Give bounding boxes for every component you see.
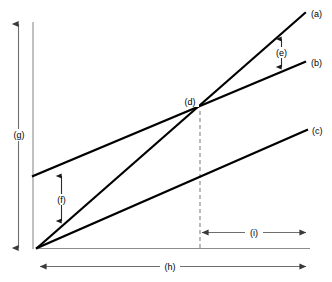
dimension-h-label: (h): [165, 262, 176, 272]
line-series-b: [33, 62, 305, 176]
line-series-c: [37, 130, 307, 248]
series-label-a: (a): [311, 9, 322, 19]
dimension-f-label: (f): [57, 195, 66, 205]
dimension-f-group: (f): [52, 176, 71, 221]
diagram-canvas: (a) (b) (c) (d) (e) (f) (g) (h): [0, 0, 332, 282]
dimension-g-label: (g): [14, 130, 25, 140]
dimension-h-group: (h): [40, 260, 306, 272]
dimension-i-group: (i): [202, 226, 306, 238]
series-label-b: (b): [311, 58, 322, 68]
data-lines-group: [33, 13, 307, 248]
dimension-e-group: (e): [272, 39, 291, 67]
dimension-e-label: (e): [276, 48, 287, 58]
intersection-label-d: (d): [185, 97, 196, 107]
series-label-c: (c): [312, 126, 323, 136]
line-chart-svg: (a) (b) (c) (d) (e) (f) (g) (h): [0, 0, 332, 282]
dimension-g-group: (g): [9, 24, 29, 248]
dimension-i-label: (i): [250, 228, 258, 238]
line-series-a: [37, 13, 305, 248]
